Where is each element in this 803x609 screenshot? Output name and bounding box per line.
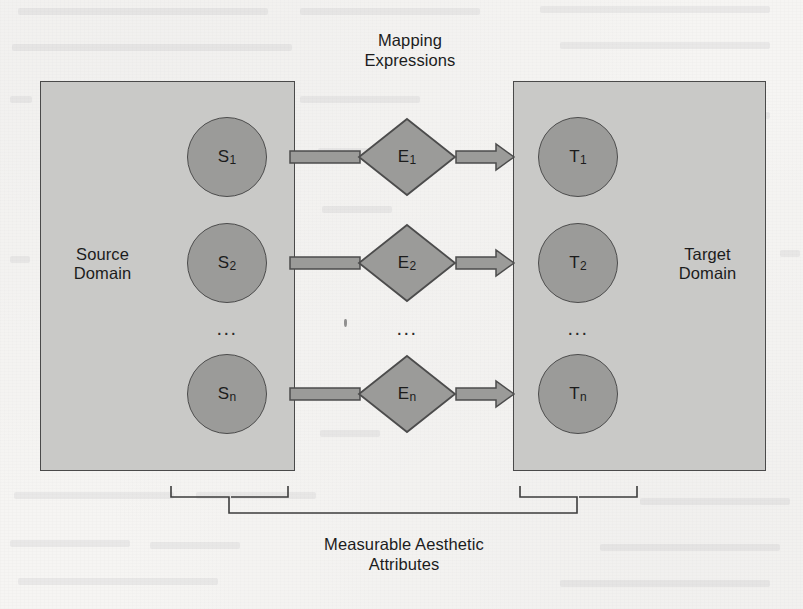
measurable-attributes-caption: Measurable Aesthetic Attributes — [304, 534, 504, 574]
bracket-left — [171, 486, 229, 505]
measurable-attributes-bracket — [0, 0, 803, 609]
figure-canvas: Mapping Expressions Source Domain S1 S2 … — [0, 0, 803, 609]
bracket-join — [229, 505, 577, 513]
bracket-right — [520, 486, 577, 505]
